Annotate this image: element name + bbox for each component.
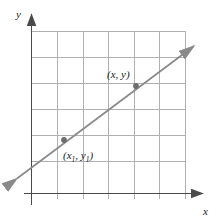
point-label-x1-y1-open: (x xyxy=(63,149,72,162)
y-axis-label: y xyxy=(15,8,21,20)
point-label-x1-y1-close: ) xyxy=(88,149,93,162)
point-marker-x1-y1 xyxy=(61,137,67,143)
point-label-x1-y1-mid: , y xyxy=(75,149,86,161)
point-marker-x-y xyxy=(133,83,139,89)
x-axis-label: x xyxy=(202,205,208,217)
point-label-x-y: (x, y) xyxy=(107,68,130,81)
coordinate-graph-figure: y x (x, y) (x1, y1) xyxy=(0,0,223,221)
graph-canvas: y x (x, y) (x1, y1) xyxy=(0,0,223,221)
grid-lines xyxy=(31,31,186,199)
graphed-line xyxy=(17,46,194,179)
plotted-points xyxy=(61,83,139,143)
graphed-line-group xyxy=(17,46,194,179)
